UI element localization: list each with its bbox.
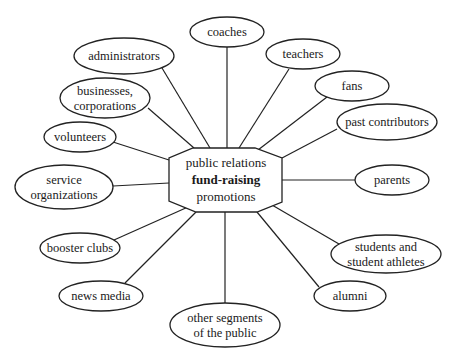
node-students: students andstudent athletes xyxy=(331,235,441,273)
connector-businesses-corporations xyxy=(148,108,194,148)
connector-administrators xyxy=(162,68,210,148)
node-fans: fans xyxy=(315,71,389,101)
node-label: past contributors xyxy=(345,115,429,129)
center-line-2: fund-raising xyxy=(192,172,261,187)
node-label: volunteers xyxy=(54,130,106,144)
node-label: organizations xyxy=(30,188,97,202)
connector-news-media xyxy=(125,212,196,283)
connector-alumni xyxy=(257,212,319,287)
connector-students xyxy=(272,205,339,244)
node-parents: parents xyxy=(355,165,429,195)
node-label: fans xyxy=(342,79,363,93)
node-label: other segments xyxy=(187,311,262,325)
center-line-3: promotions xyxy=(196,189,255,204)
connector-teachers xyxy=(239,69,289,148)
center-line-1: public relations xyxy=(186,155,267,170)
node-coaches: coaches xyxy=(190,17,264,47)
node-label: alumni xyxy=(333,289,368,303)
node-label: administrators xyxy=(88,49,160,63)
node-label: service xyxy=(46,173,82,187)
node-label: corporations xyxy=(74,99,137,113)
center-hub: public relations fund-raising promotions xyxy=(169,148,282,212)
diagram-canvas: public relations fund-raising promotions… xyxy=(0,0,457,359)
node-label: student athletes xyxy=(347,255,425,269)
node-label: coaches xyxy=(207,25,247,39)
node-news-media: news media xyxy=(59,281,143,311)
node-label: teachers xyxy=(283,47,324,61)
stakeholder-diagram: public relations fund-raising promotions… xyxy=(0,0,457,359)
node-label: parents xyxy=(374,173,410,187)
node-label: news media xyxy=(71,289,131,303)
node-businesses-corporations: businesses,corporations xyxy=(60,78,150,118)
node-other-segments: other segmentsof the public xyxy=(170,303,280,347)
node-booster-clubs: booster clubs xyxy=(40,233,120,263)
node-administrators: administrators xyxy=(74,38,174,74)
node-alumni: alumni xyxy=(314,281,386,311)
connector-booster-clubs xyxy=(114,207,188,240)
node-service-organizations: serviceorganizations xyxy=(15,165,113,209)
node-volunteers: volunteers xyxy=(44,122,116,152)
node-label: of the public xyxy=(193,326,257,340)
connector-past-contributors xyxy=(282,129,337,158)
connector-service-organizations xyxy=(113,183,169,186)
connector-fans xyxy=(258,97,327,150)
node-past-contributors: past contributors xyxy=(337,104,437,140)
node-label: businesses, xyxy=(77,84,133,98)
node-label: booster clubs xyxy=(47,241,113,255)
node-label: students and xyxy=(355,240,418,254)
node-teachers: teachers xyxy=(266,39,340,69)
connector-volunteers xyxy=(113,142,169,160)
